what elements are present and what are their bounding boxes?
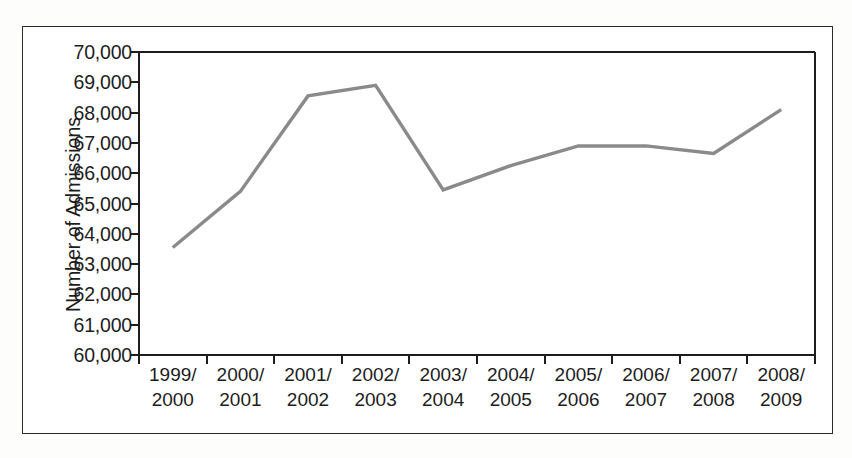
y-axis-tick-label: 65,000 bbox=[6, 192, 132, 215]
y-axis-tick-label: 61,000 bbox=[6, 313, 132, 336]
x-axis-tick-label: 2008/2009 bbox=[738, 362, 824, 412]
chart-figure: Number of Admissions 70,00069,00068,0006… bbox=[0, 0, 852, 458]
y-axis-tick-label: 69,000 bbox=[6, 71, 132, 94]
y-axis-tick-label: 66,000 bbox=[6, 162, 132, 185]
y-axis-tick-labels: 70,00069,00068,00067,00066,00065,00064,0… bbox=[0, 0, 132, 458]
y-axis-tick-label: 67,000 bbox=[6, 131, 132, 154]
y-axis-tick-label: 63,000 bbox=[6, 253, 132, 276]
y-axis-tick-label: 60,000 bbox=[6, 344, 132, 367]
y-axis-tick-label: 70,000 bbox=[6, 41, 132, 64]
x-axis-tick-labels: 1999/20002000/20012001/20022002/20032003… bbox=[139, 362, 815, 432]
y-axis-tick-label: 64,000 bbox=[6, 222, 132, 245]
y-axis-tick-label: 68,000 bbox=[6, 101, 132, 124]
y-axis-tick-label: 62,000 bbox=[6, 283, 132, 306]
